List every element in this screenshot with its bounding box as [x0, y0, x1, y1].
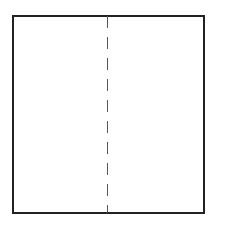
- dashed-center-line: [107, 16, 108, 213]
- rectangle-outline: [12, 15, 205, 214]
